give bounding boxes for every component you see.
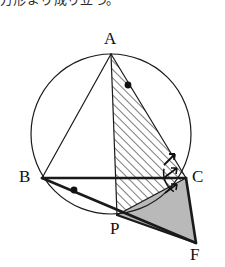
point-label-B: B	[19, 168, 30, 185]
angle-dot-at-A	[125, 82, 132, 89]
point-label-A: A	[104, 30, 116, 47]
angle-dot-at-B	[71, 187, 78, 194]
point-label-F: F	[190, 246, 199, 263]
point-label-C: C	[192, 168, 203, 185]
segment-AB	[42, 54, 111, 178]
point-label-P: P	[110, 220, 119, 237]
